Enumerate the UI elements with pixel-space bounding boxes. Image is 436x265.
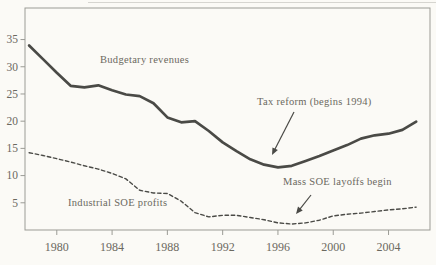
line-chart: 5101520253035198019841988199219962000200… [0, 0, 436, 265]
book-figure-page: 5101520253035198019841988199219962000200… [0, 0, 436, 265]
x-tick-label: 1988 [155, 240, 179, 254]
x-tick-label: 1984 [100, 240, 124, 254]
y-tick-label: 5 [12, 197, 18, 209]
series-label-budgetary-revenues: Budgetary revenues [100, 54, 189, 65]
y-tick-label: 35 [7, 33, 19, 45]
annotation-mass-soe-layoffs: Mass SOE layoffs begin [283, 176, 392, 187]
y-tick-label: 15 [7, 142, 19, 154]
series-label-industrial-soe-profits: Industrial SOE profits [68, 197, 167, 208]
annotation-tax-reform: Tax reform (begins 1994) [257, 96, 372, 107]
x-tick-label: 1992 [211, 240, 235, 254]
y-tick-label: 25 [7, 88, 19, 100]
x-tick-label: 2004 [377, 240, 401, 254]
x-tick-label: 2000 [321, 240, 345, 254]
y-tick-label: 10 [7, 169, 19, 181]
y-tick-label: 20 [7, 115, 19, 127]
annotation-arrow [274, 112, 294, 151]
x-tick-label: 1980 [45, 240, 69, 254]
y-tick-label: 30 [7, 61, 19, 73]
annotation-arrow [299, 195, 311, 210]
x-tick-label: 1996 [266, 240, 290, 254]
series-line-industrial-soe-profits [29, 153, 416, 224]
